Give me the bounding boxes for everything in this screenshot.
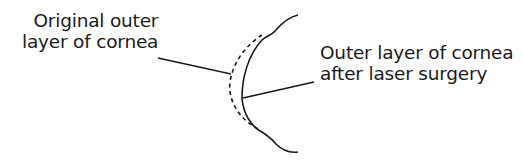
leader-line-after bbox=[243, 82, 314, 98]
cornea-after-surgery-curve bbox=[242, 15, 298, 152]
leader-line-original bbox=[158, 58, 231, 74]
cornea-diagram bbox=[0, 0, 523, 161]
